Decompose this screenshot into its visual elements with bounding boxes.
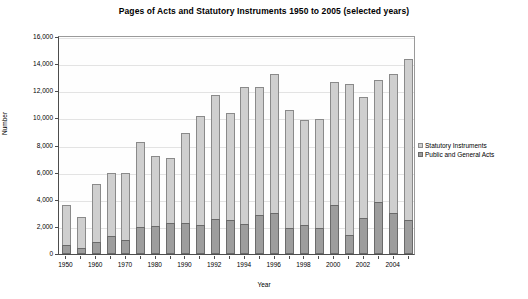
bar-segment-statutory-instruments xyxy=(181,133,190,223)
bar-segment-statutory-instruments xyxy=(374,80,383,201)
x-tick-label: 1950 xyxy=(50,261,80,268)
x-tick-mark xyxy=(184,256,185,259)
x-tick-label: 1996 xyxy=(259,261,289,268)
bar xyxy=(404,59,413,254)
bar xyxy=(315,119,324,254)
bar-segment-statutory-instruments xyxy=(136,142,145,227)
bar xyxy=(196,116,205,254)
legend-item-public-and-general-acts: Public and General Acts xyxy=(418,150,494,159)
bar xyxy=(359,97,368,254)
bar xyxy=(285,110,294,254)
bar-segment-public-and-general-acts xyxy=(270,213,279,254)
bar xyxy=(92,184,101,254)
chart-title: Pages of Acts and Statutory Instruments … xyxy=(0,6,528,16)
bar-segment-statutory-instruments xyxy=(240,87,249,224)
bar-segment-public-and-general-acts xyxy=(77,248,86,254)
x-tick-mark xyxy=(378,256,379,259)
bar-segment-public-and-general-acts xyxy=(374,202,383,254)
x-tick-mark xyxy=(229,256,230,259)
bar-segment-statutory-instruments xyxy=(166,158,175,223)
x-tick-mark xyxy=(318,256,319,259)
x-tick-mark xyxy=(155,256,156,259)
chart-legend: Statutory Instruments Public and General… xyxy=(418,141,494,159)
bar-segment-public-and-general-acts xyxy=(345,235,354,254)
bar xyxy=(151,156,160,254)
y-tick-label: 0 xyxy=(17,251,53,258)
bar-segment-public-and-general-acts xyxy=(255,215,264,254)
bar-segment-statutory-instruments xyxy=(77,217,86,248)
bar xyxy=(107,173,116,254)
bars-layer xyxy=(59,37,414,254)
bar-segment-public-and-general-acts xyxy=(359,218,368,254)
x-tick-label: 1998 xyxy=(288,261,318,268)
x-tick-mark xyxy=(303,256,304,259)
x-tick-mark xyxy=(125,256,126,259)
y-tick-label: 10,000 xyxy=(17,115,53,122)
x-tick-mark xyxy=(274,256,275,259)
bar xyxy=(255,87,264,254)
x-tick-label: 2004 xyxy=(378,261,408,268)
bar-segment-public-and-general-acts xyxy=(300,225,309,254)
bar-segment-public-and-general-acts xyxy=(404,220,413,254)
bar-segment-public-and-general-acts xyxy=(211,219,220,254)
x-axis-label: Year xyxy=(0,281,528,288)
x-tick-label: 2002 xyxy=(348,261,378,268)
bar-segment-statutory-instruments xyxy=(270,74,279,214)
bar xyxy=(270,74,279,254)
y-axis-label: Number xyxy=(1,94,8,154)
bar xyxy=(211,95,220,254)
bar-segment-public-and-general-acts xyxy=(181,223,190,254)
bar-segment-statutory-instruments xyxy=(92,184,101,242)
bar-segment-statutory-instruments xyxy=(300,120,309,224)
bar-segment-statutory-instruments xyxy=(62,205,71,245)
x-tick-mark xyxy=(408,256,409,259)
x-tick-mark xyxy=(80,256,81,259)
bar-segment-statutory-instruments xyxy=(345,84,354,235)
bar xyxy=(121,173,130,254)
bar-segment-public-and-general-acts xyxy=(240,224,249,254)
bar-segment-public-and-general-acts xyxy=(315,228,324,254)
x-tick-mark xyxy=(65,256,66,259)
x-tick-mark xyxy=(348,256,349,259)
bar xyxy=(345,84,354,254)
x-tick-mark xyxy=(95,256,96,259)
y-tick-label: 16,000 xyxy=(17,34,53,41)
x-tick-label: 1992 xyxy=(199,261,229,268)
x-tick-label: 2000 xyxy=(318,261,348,268)
bar xyxy=(389,74,398,254)
bar-segment-public-and-general-acts xyxy=(151,226,160,254)
bar-segment-public-and-general-acts xyxy=(62,245,71,254)
plot-area xyxy=(58,36,415,255)
bar-segment-statutory-instruments xyxy=(389,74,398,213)
bar xyxy=(77,217,86,254)
x-tick-label: 1960 xyxy=(80,261,110,268)
bar-segment-statutory-instruments xyxy=(330,82,339,205)
bar-segment-public-and-general-acts xyxy=(136,227,145,254)
y-tick-label: 6,000 xyxy=(17,170,53,177)
bar xyxy=(300,120,309,254)
x-tick-label: 1994 xyxy=(229,261,259,268)
y-tick-label: 12,000 xyxy=(17,88,53,95)
x-tick-mark xyxy=(244,256,245,259)
bar-segment-public-and-general-acts xyxy=(330,205,339,255)
bar xyxy=(166,158,175,254)
y-tick-label: 2,000 xyxy=(17,224,53,231)
bar xyxy=(226,113,235,254)
bar xyxy=(62,205,71,254)
bar-segment-statutory-instruments xyxy=(107,173,116,237)
bar-segment-statutory-instruments xyxy=(404,59,413,220)
bar-segment-statutory-instruments xyxy=(315,119,324,228)
legend-swatch-icon xyxy=(418,143,423,148)
bar xyxy=(374,80,383,254)
legend-item-label: Statutory Instruments xyxy=(425,142,487,149)
x-tick-mark xyxy=(110,256,111,259)
x-tick-label: 1980 xyxy=(140,261,170,268)
bar xyxy=(330,82,339,254)
legend-item-label: Public and General Acts xyxy=(425,151,494,158)
bar-segment-statutory-instruments xyxy=(211,95,220,219)
legend-item-statutory-instruments: Statutory Instruments xyxy=(418,141,494,150)
x-tick-label: 1970 xyxy=(110,261,140,268)
x-tick-mark xyxy=(259,256,260,259)
x-tick-mark xyxy=(393,256,394,259)
bar-segment-statutory-instruments xyxy=(226,113,235,220)
